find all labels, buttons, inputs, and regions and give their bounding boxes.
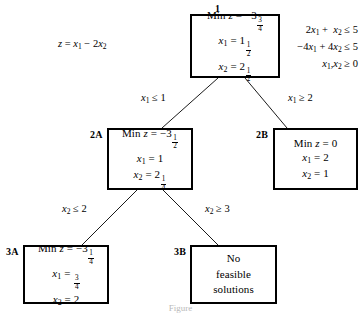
edge-label-x2-ge-3: x2 ≥ 3 <box>205 203 230 216</box>
edge-2A-to-3B <box>163 190 218 245</box>
constraints-annotation: 2x1 + x2 ≤ 5 −4x1 + 4x2 ≤ 5 x1,x2 ≥ 0 <box>286 22 358 73</box>
node-2B-line-3: x2 = 1 <box>302 166 329 182</box>
node-id-3A: 3A <box>6 246 19 257</box>
node-id-2B: 2B <box>256 129 268 140</box>
objective-annotation: z = x1 − 2x2 <box>58 38 107 51</box>
node-3A-line-1: Min z = −314 <box>38 241 94 266</box>
constraint-2: −4x1 + 4x2 ≤ 5 <box>286 39 358 56</box>
node-3B-line-3: solutions <box>213 282 254 298</box>
constraint-3: x1,x2 ≥ 0 <box>286 56 358 73</box>
node-1-line-2: x1 = 112 <box>219 33 252 58</box>
node-2A-line-1: Min z = −312 <box>122 126 178 151</box>
node-2B-line-1: Min z = 0 <box>294 136 338 150</box>
edge-label-x1-le-1: x1 ≤ 1 <box>141 92 166 105</box>
edge-1-to-2A <box>162 78 218 128</box>
branch-and-bound-diagram: 1 Min z = −334 x1 = 112 x2 = 212 z = x1 … <box>0 0 361 317</box>
node-2A-line-3: x2 = 214 <box>134 167 167 192</box>
node-1-line-1: Min z = −334 <box>207 8 263 33</box>
node-id-3B: 3B <box>174 246 186 257</box>
node-2A-line-2: x1 = 1 <box>137 151 164 167</box>
node-3B-line-2: feasible <box>216 267 251 283</box>
constraint-1: 2x1 + x2 ≤ 5 <box>286 22 358 39</box>
node-box-2B: Min z = 0 x1 = 2 x2 = 1 <box>273 128 358 190</box>
node-box-3B: No feasible solutions <box>190 245 277 304</box>
edge-2A-to-3A <box>82 190 137 245</box>
edge-1-to-2B <box>245 78 287 128</box>
node-box-3A: Min z = −314 x1 = 34 x2 = 2 <box>23 245 109 304</box>
edge-label-x2-le-2: x2 ≤ 2 <box>62 203 87 216</box>
node-box-2A: Min z = −312 x1 = 1 x2 = 214 <box>107 128 193 190</box>
figure-caption: Figure <box>0 303 361 317</box>
node-box-1: Min z = −334 x1 = 112 x2 = 212 <box>190 14 280 78</box>
node-2B-line-2: x1 = 2 <box>302 150 329 166</box>
node-1-line-3: x2 = 212 <box>219 59 252 84</box>
node-3B-line-1: No <box>227 251 241 267</box>
node-id-2A: 2A <box>90 129 103 140</box>
node-3A-line-2: x1 = 34 <box>52 266 79 291</box>
edge-label-x1-ge-2: x1 ≥ 2 <box>288 92 313 105</box>
